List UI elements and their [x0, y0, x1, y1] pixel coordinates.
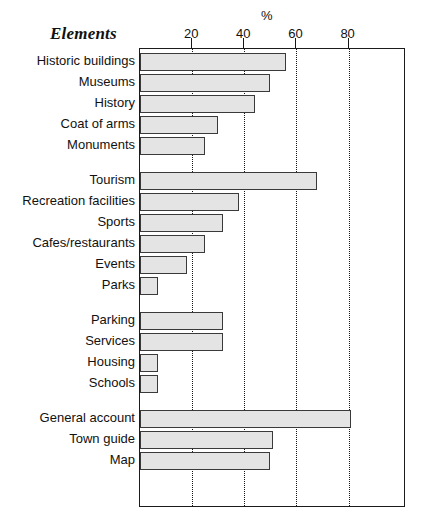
- category-label: Parking: [91, 311, 135, 329]
- category-label: Sports: [97, 213, 135, 231]
- bar: [140, 193, 239, 211]
- bar-row: [140, 256, 406, 274]
- bar-row: [140, 375, 406, 393]
- bar-row: [140, 193, 406, 211]
- bar-row: [140, 235, 406, 253]
- bar-row: [140, 214, 406, 232]
- bar-row: [140, 354, 406, 372]
- category-label: Museums: [79, 73, 135, 91]
- bar-row: [140, 312, 406, 330]
- x-axis-label: %: [261, 8, 273, 23]
- category-label: Recreation facilities: [22, 192, 135, 210]
- category-label: Parks: [102, 276, 135, 294]
- tick-mark-40: [243, 38, 244, 48]
- category-label: Schools: [89, 374, 135, 392]
- category-label: Cafes/restaurants: [32, 234, 135, 252]
- category-label: Map: [110, 451, 135, 469]
- bar-row: [140, 53, 406, 71]
- bar-row: [140, 452, 406, 470]
- bar: [140, 431, 273, 449]
- bar-row: [140, 137, 406, 155]
- category-label: Tourism: [89, 171, 135, 189]
- category-label: General account: [40, 409, 135, 427]
- bar: [140, 333, 223, 351]
- bar: [140, 53, 286, 71]
- bar: [140, 74, 270, 92]
- bar-row: [140, 277, 406, 295]
- category-label: Historic buildings: [37, 52, 135, 70]
- bar: [140, 172, 317, 190]
- category-label: Monuments: [67, 136, 135, 154]
- tick-mark-20: [191, 38, 192, 48]
- bar: [140, 452, 270, 470]
- category-label: Town guide: [69, 430, 135, 448]
- bar: [140, 116, 218, 134]
- category-label: Coat of arms: [61, 115, 135, 133]
- bar-row: [140, 410, 406, 428]
- bar-row: [140, 95, 406, 113]
- bar: [140, 256, 187, 274]
- bar: [140, 410, 351, 428]
- bar-row: [140, 333, 406, 351]
- bar: [140, 354, 158, 372]
- bar: [140, 277, 158, 295]
- bar-row: [140, 74, 406, 92]
- bar: [140, 137, 205, 155]
- plot-area: [139, 48, 405, 507]
- bar-chart: Elements % 20406080 Historic buildingsMu…: [0, 0, 422, 519]
- tick-mark-80: [348, 38, 349, 48]
- bar: [140, 214, 223, 232]
- bar-row: [140, 431, 406, 449]
- bar: [140, 375, 158, 393]
- chart-title: Elements: [50, 24, 117, 44]
- category-label: Events: [95, 255, 135, 273]
- bar: [140, 312, 223, 330]
- bar: [140, 95, 255, 113]
- bar-row: [140, 172, 406, 190]
- category-labels: Historic buildingsMuseumsHistoryCoat of …: [0, 48, 135, 507]
- bar: [140, 235, 205, 253]
- category-label: Housing: [87, 353, 135, 371]
- bar-row: [140, 116, 406, 134]
- category-label: History: [95, 94, 135, 112]
- tick-mark-60: [295, 38, 296, 48]
- category-label: Services: [85, 332, 135, 350]
